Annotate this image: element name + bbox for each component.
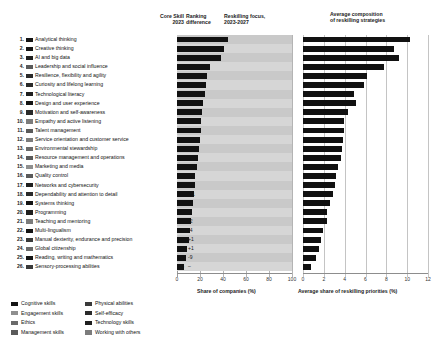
skill-row: 9.Motivation and self-awareness4-5 [0, 108, 439, 117]
bar-share-of-companies [177, 146, 199, 152]
row-index: 16. [11, 171, 24, 180]
skill-row: 26.Sensory-processing abilities26– [0, 262, 439, 271]
row-index: 3. [11, 53, 24, 62]
ranking-difference-value: -9 [188, 253, 208, 262]
bar-reskilling-priority [303, 146, 342, 152]
skill-category-swatch [26, 165, 33, 169]
bar-reskilling-priority [303, 46, 394, 52]
bar-reskilling-priority [303, 237, 321, 243]
bar-reskilling-priority [303, 218, 327, 224]
row-index: 11. [11, 126, 24, 135]
bar-share-of-companies [177, 73, 207, 79]
skill-category-swatch [26, 174, 33, 178]
bar-share-of-companies [177, 55, 221, 61]
bar-reskilling-priority [303, 64, 384, 70]
legend-swatch [11, 311, 18, 315]
skill-row: 20.Programming20– [0, 208, 439, 217]
middle-axis-tick: 60 [238, 276, 254, 282]
reskilling-focus-line2: 2023-2027 [224, 19, 294, 25]
row-index: 25. [11, 253, 24, 262]
skill-category-swatch [26, 74, 33, 78]
bar-share-of-companies [177, 100, 203, 106]
row-index: 8. [11, 99, 24, 108]
skill-label: AI and big data [35, 53, 70, 62]
skill-row: 6.Curiosity and lifelong learning6-1 [0, 80, 439, 89]
ranking-diff-line2: difference [186, 19, 219, 25]
column-header-average-composition: Average composition of reskilling strate… [330, 11, 425, 24]
ranking-difference-value: -2 [188, 217, 208, 226]
bar-share-of-companies [177, 200, 193, 206]
bar-reskilling-priority [303, 182, 335, 188]
skill-category-swatch [26, 119, 33, 123]
right-axis-tick: 12 [420, 276, 436, 282]
bar-share-of-companies [177, 128, 201, 134]
legend-label: Self-efficacy [95, 309, 123, 319]
bar-share-of-companies [177, 218, 191, 224]
skill-category-swatch [26, 101, 33, 105]
legend-label: Working with others [95, 328, 140, 338]
legend-label: Management skills [21, 328, 64, 338]
row-index: 13. [11, 144, 24, 153]
skill-category-swatch [26, 83, 33, 87]
skill-row: 17.Networks and cybersecurity22+5 [0, 181, 439, 190]
bar-reskilling-priority [303, 246, 319, 252]
skill-category-swatch [26, 56, 33, 60]
skill-row: 11.Talent management12+1 [0, 126, 439, 135]
skills-ranking-chart: Core Skill 2023 Ranking difference Reski… [0, 0, 439, 352]
skill-category-swatch [26, 192, 33, 196]
skill-category-swatch [26, 210, 33, 214]
row-index: 26. [11, 262, 24, 271]
skill-label: Environmental stewardship [35, 144, 97, 153]
ranking-difference-value: +1 [188, 235, 208, 244]
bar-reskilling-priority [303, 128, 344, 134]
row-index: 4. [11, 62, 24, 71]
right-axis-line [303, 273, 428, 274]
skill-label: Creative thinking [35, 44, 74, 53]
legend-swatch [85, 321, 92, 325]
middle-axis-tick: 20 [192, 276, 208, 282]
skill-category-swatch [26, 183, 33, 187]
bar-share-of-companies [177, 237, 189, 243]
skill-row: 7.Technological literacy6-1 [0, 90, 439, 99]
row-index: 14. [11, 153, 24, 162]
skill-label: Manual dexterity, endurance and precisio… [35, 235, 132, 244]
bar-reskilling-priority [303, 255, 316, 261]
bar-reskilling-priority [303, 137, 343, 143]
ranking-difference-value: – [188, 262, 208, 271]
bar-share-of-companies [177, 118, 201, 124]
skill-category-swatch [26, 65, 33, 69]
legend-swatch [11, 330, 18, 334]
bar-share-of-companies [177, 137, 200, 143]
skill-category-swatch [26, 129, 33, 133]
skill-label: Resource management and operations [35, 153, 125, 162]
bar-share-of-companies [177, 255, 186, 261]
skill-category-swatch [26, 156, 33, 160]
row-index: 5. [11, 71, 24, 80]
row-index: 7. [11, 90, 24, 99]
bar-share-of-companies [177, 191, 194, 197]
row-index: 6. [11, 80, 24, 89]
skill-category-swatch [26, 38, 33, 42]
skill-label: Programming [35, 208, 66, 217]
skill-row: 10.Empathy and active listening8-2 [0, 117, 439, 126]
middle-axis-title: Share of companies (%) [197, 288, 256, 294]
row-index: 10. [11, 117, 24, 126]
bar-share-of-companies [177, 246, 187, 252]
right-axis-tick: 6 [358, 276, 374, 282]
bar-reskilling-priority [303, 173, 336, 179]
skill-row: 1.Analytical thinking1– [0, 35, 439, 44]
skill-category-swatch [26, 92, 33, 96]
middle-axis-tick: 40 [215, 276, 231, 282]
bar-reskilling-priority [303, 228, 323, 234]
ranking-difference-value: +1 [188, 244, 208, 253]
row-index: 12. [11, 135, 24, 144]
skill-label: Motivation and self-awareness [35, 108, 105, 117]
skill-label: Design and user experience [35, 99, 100, 108]
skill-label: Empathy and active listening [35, 117, 101, 126]
skill-label: Quality control [35, 171, 68, 180]
bar-reskilling-priority [303, 118, 344, 124]
skill-category-swatch [26, 147, 33, 151]
legend-label: Cognitive skills [21, 299, 55, 309]
row-index: 19. [11, 199, 24, 208]
skill-category-swatch [26, 110, 33, 114]
